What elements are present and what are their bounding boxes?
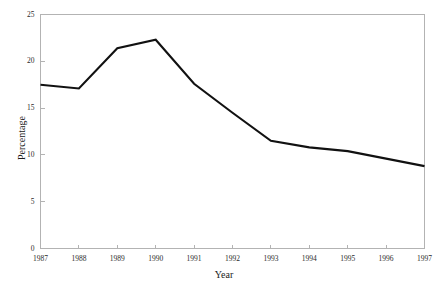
y-tick-label: 25 <box>5 11 35 19</box>
x-axis-title: Year <box>0 270 448 280</box>
y-tick-label: 0 <box>5 245 35 253</box>
line-chart: 0510152025 19871988198919901991199219931… <box>0 0 448 290</box>
y-axis-ticks <box>41 15 45 249</box>
x-axis-ticks <box>41 245 425 249</box>
x-tick-label: 1997 <box>405 255 445 263</box>
y-axis-title: Percentage <box>17 116 27 160</box>
y-tick-label: 5 <box>5 198 35 206</box>
chart-canvas <box>0 0 448 290</box>
x-tick-label: 1990 <box>136 255 176 263</box>
x-tick-label: 1988 <box>59 255 99 263</box>
x-tick-label: 1995 <box>328 255 368 263</box>
x-tick-label: 1989 <box>97 255 137 263</box>
data-series-line <box>41 40 425 166</box>
y-tick-label: 20 <box>5 57 35 65</box>
plot-area-border <box>41 15 425 249</box>
plot-frame <box>41 15 425 249</box>
x-tick-label: 1987 <box>21 255 61 263</box>
y-tick-label: 15 <box>5 104 35 112</box>
x-tick-label: 1992 <box>213 255 253 263</box>
x-tick-label: 1994 <box>289 255 329 263</box>
x-tick-label: 1993 <box>251 255 291 263</box>
x-tick-label: 1991 <box>174 255 214 263</box>
x-tick-label: 1996 <box>366 255 406 263</box>
